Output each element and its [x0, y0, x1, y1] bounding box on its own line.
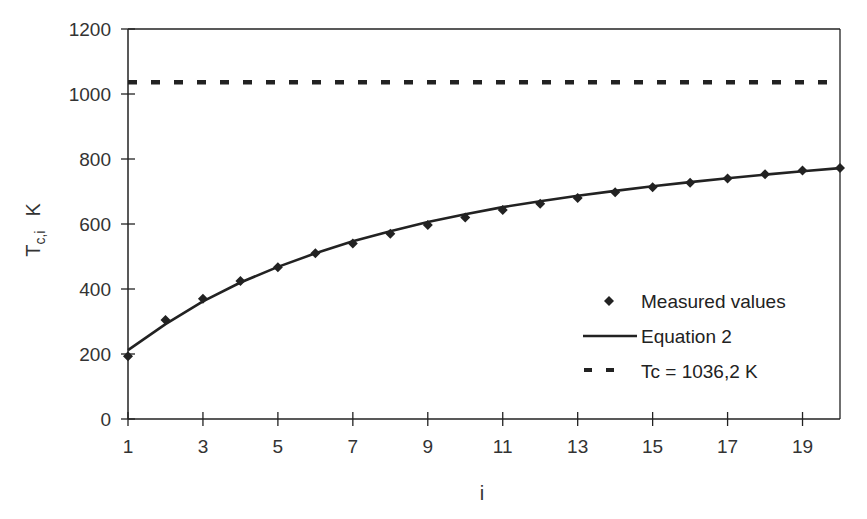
- svg-text:17: 17: [717, 436, 738, 457]
- y-axis: 020040060080010001200: [69, 19, 135, 430]
- y-axis-label: Tc,iK: [22, 203, 48, 257]
- svg-text:9: 9: [423, 436, 434, 457]
- y-axis-label-sub: c,i: [32, 231, 48, 245]
- data-point: [835, 163, 845, 173]
- data-point: [760, 169, 770, 179]
- data-point: [648, 182, 658, 192]
- data-point: [798, 165, 808, 175]
- svg-text:0: 0: [100, 409, 111, 430]
- data-point: [123, 351, 133, 361]
- legend-item-equation: Equation 2: [583, 326, 732, 347]
- y-axis-label-unit: K: [22, 203, 44, 217]
- data-point: [610, 187, 620, 197]
- legend-label-measured: Measured values: [641, 291, 786, 312]
- svg-text:600: 600: [79, 214, 111, 235]
- legend-label-equation: Equation 2: [641, 326, 732, 347]
- data-point: [723, 174, 733, 184]
- chart: 020040060080010001200 135791113151719 i …: [0, 0, 867, 519]
- svg-text:400: 400: [79, 279, 111, 300]
- legend-label-tc: Tc = 1036,2 K: [641, 361, 758, 382]
- svg-text:200: 200: [79, 344, 111, 365]
- series-equation-2: [128, 168, 840, 350]
- series-measured-values: [123, 163, 845, 361]
- svg-text:19: 19: [792, 436, 813, 457]
- svg-text:3: 3: [198, 436, 209, 457]
- data-point: [310, 248, 320, 258]
- legend-item-tc: Tc = 1036,2 K: [584, 361, 758, 382]
- diamond-marker-icon: [604, 296, 614, 306]
- data-point: [273, 262, 283, 272]
- legend: Measured values Equation 2 Tc = 1036,2 K: [583, 291, 786, 382]
- svg-text:1200: 1200: [69, 19, 111, 40]
- svg-text:Tc,iK: Tc,iK: [22, 203, 48, 257]
- data-point: [685, 178, 695, 188]
- x-axis-label: i: [480, 482, 484, 504]
- svg-text:7: 7: [348, 436, 359, 457]
- legend-item-measured: Measured values: [604, 291, 786, 312]
- svg-text:1000: 1000: [69, 84, 111, 105]
- svg-text:13: 13: [567, 436, 588, 457]
- svg-text:15: 15: [642, 436, 663, 457]
- svg-text:5: 5: [273, 436, 284, 457]
- svg-text:1: 1: [123, 436, 134, 457]
- svg-text:11: 11: [493, 436, 513, 457]
- y-axis-label-main: T: [22, 245, 44, 257]
- svg-text:800: 800: [79, 149, 111, 170]
